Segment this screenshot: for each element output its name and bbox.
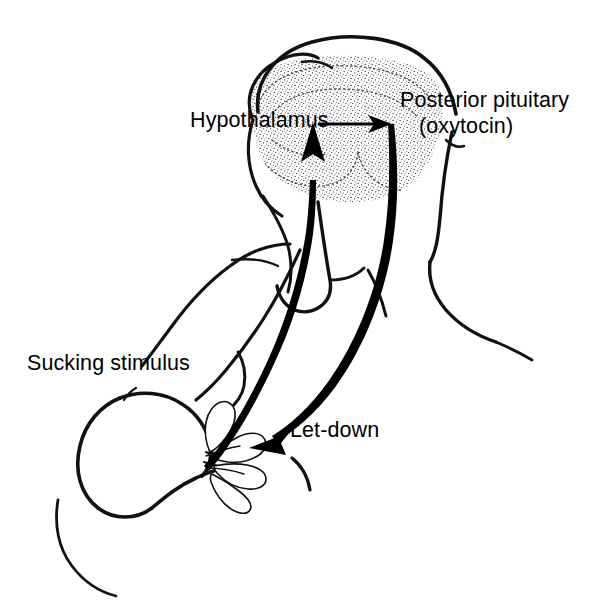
- label-let-down: Let-down: [290, 418, 379, 443]
- label-hypothalamus: Hypothalamus: [190, 108, 329, 133]
- figure-root: Hypothalamus Posterior pituitary (oxytoc…: [0, 0, 602, 611]
- infant-head-arc: [292, 458, 310, 490]
- label-oxytocin: (oxytocin): [419, 114, 513, 139]
- neck-outline: [430, 132, 496, 342]
- arm-outline: [142, 244, 300, 410]
- label-posterior-pituitary: Posterior pituitary: [400, 88, 569, 113]
- label-sucking-stimulus: Sucking stimulus: [27, 351, 190, 376]
